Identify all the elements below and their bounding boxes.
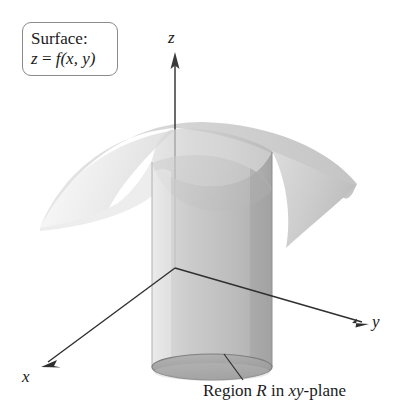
base-shadow (154, 363, 270, 381)
x-axis-label: x (22, 367, 30, 387)
cylinder-left-highlight (153, 169, 171, 365)
cylinder-right-shade (250, 168, 271, 365)
surface-label-title: Surface: (31, 29, 88, 49)
surface-label-box: Surface: z = f(x, y) (22, 22, 118, 76)
caption-region-symbol: R (256, 381, 266, 400)
equation-args: (x, y) (60, 49, 95, 68)
cylinder-over-region (152, 129, 272, 381)
caption-prefix: Region (203, 381, 256, 400)
y-axis-label: y (372, 312, 380, 332)
z-axis-label: z (168, 28, 175, 48)
region-caption: Region R in xy-plane (203, 381, 346, 401)
x-axis-arrowhead (41, 360, 61, 368)
equation-z: z (31, 49, 38, 68)
caption-middle: in (267, 381, 289, 400)
surface-label-equation: z = f(x, y) (31, 49, 95, 69)
caption-suffix: -plane (304, 381, 346, 400)
surface-region-figure: Surface: z = f(x, y) z y x Region R in x… (0, 0, 399, 411)
equation-equals: = (38, 49, 56, 68)
caption-plane-symbol: xy (288, 381, 303, 400)
